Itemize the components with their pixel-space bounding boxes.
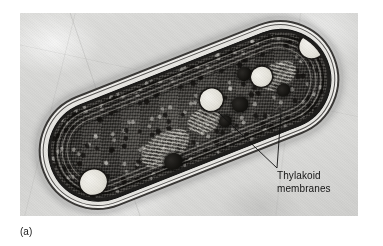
figure-panel-a: Thylakoidmembranes (a) <box>0 0 383 246</box>
panel-caption-marker: (a) <box>20 226 32 238</box>
thylakoid-label-line1: Thylakoid <box>277 170 321 181</box>
thylakoid-label-line2: membranes <box>277 183 331 194</box>
thylakoid-membranes-label: Thylakoidmembranes <box>277 170 331 195</box>
